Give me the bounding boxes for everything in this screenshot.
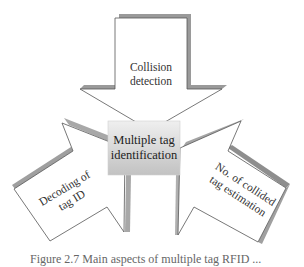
top-arrow-label: Collision detection — [115, 60, 187, 88]
top-arrow-label-line1: Collision — [115, 60, 187, 74]
figure-caption: Figure 2.7 Main aspects of multiple tag … — [30, 252, 261, 267]
center-box-label: Multiple tag identification — [108, 133, 180, 163]
center-box-label-line1: Multiple tag — [108, 133, 180, 148]
top-arrow-label-line2: detection — [115, 74, 187, 88]
center-box-label-line2: identification — [108, 148, 180, 163]
